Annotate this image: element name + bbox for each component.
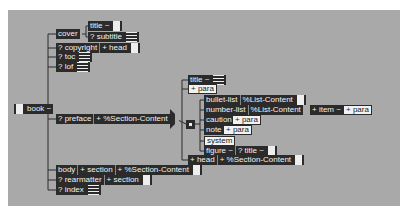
collapsed-lines-icon <box>126 32 137 42</box>
node-index[interactable]: ? index <box>56 185 101 195</box>
node-item-para[interactable]: + para <box>343 105 372 115</box>
text-marker-icon <box>193 165 200 175</box>
collapsed-lines-icon <box>88 185 99 195</box>
node-caution-para[interactable]: + para <box>232 115 261 125</box>
node-cover-title[interactable]: title ~ <box>88 21 122 31</box>
text-marker-icon <box>113 21 120 31</box>
expand-marker-icon <box>16 104 23 114</box>
node-system[interactable]: system <box>204 136 235 146</box>
collapsed-lines-icon <box>77 62 88 72</box>
node-preface[interactable]: ? preface + %Section-Content <box>56 114 179 124</box>
text-marker-icon <box>295 155 302 165</box>
choice-icon[interactable] <box>186 120 195 129</box>
node-sc-para[interactable]: + para <box>188 84 217 94</box>
node-cover[interactable]: cover <box>56 29 80 39</box>
text-marker-icon <box>297 95 304 105</box>
text-marker-icon <box>143 175 150 185</box>
node-note-para[interactable]: + para <box>223 125 252 135</box>
node-head[interactable]: + head + %Section-Content <box>188 155 304 165</box>
node-rearmatter[interactable]: ? rearmatter + section <box>56 175 152 185</box>
node-lof[interactable]: ? lof <box>56 62 90 72</box>
collapsed-lines-icon <box>79 52 90 62</box>
arrow-icon <box>170 109 179 129</box>
node-book[interactable]: book ~ <box>14 104 53 114</box>
node-number-list[interactable]: number-list %List-Content <box>204 105 303 115</box>
node-cover-subtitle[interactable]: ? subtitle <box>88 32 139 42</box>
node-body[interactable]: body + section + %Section-Content <box>56 165 202 175</box>
node-bullet-list[interactable]: bullet-list %List-Content <box>204 95 306 105</box>
text-marker-icon <box>131 43 138 53</box>
node-toc[interactable]: ? toc <box>56 52 92 62</box>
node-note[interactable]: note <box>204 125 224 135</box>
node-item[interactable]: + item ~ <box>310 105 343 115</box>
node-caution[interactable]: caution <box>204 115 234 125</box>
